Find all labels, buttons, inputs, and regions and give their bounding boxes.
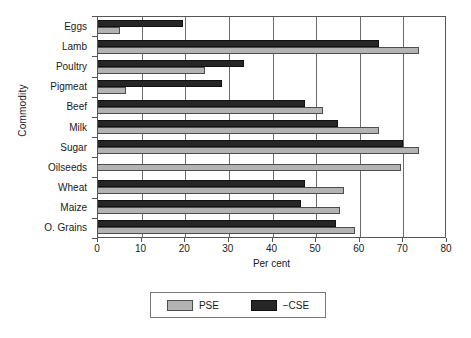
y-axis-label: Poultry: [14, 56, 92, 76]
y-tick-mark: [92, 97, 97, 98]
x-tick-label: 30: [222, 243, 233, 254]
x-tick-label: 10: [135, 243, 146, 254]
bar-group: [98, 97, 445, 117]
bar-group: [98, 197, 445, 217]
bar-cse: [98, 120, 338, 127]
bar-group: [98, 217, 445, 237]
x-tick-mark: [359, 238, 360, 242]
y-axis-label: Lamb: [14, 36, 92, 56]
legend-label-pse: PSE: [199, 300, 219, 311]
x-tick-label: 60: [353, 243, 364, 254]
bars-layer: [98, 17, 445, 237]
bar-cse: [98, 200, 301, 207]
y-tick-mark: [92, 56, 97, 57]
bar-group: [98, 37, 445, 57]
x-tick-mark: [228, 238, 229, 242]
bar-chart: Commodity Eggs Lamb Poultry Pigmeat Beef…: [0, 0, 471, 338]
bar-group: [98, 117, 445, 137]
chart-legend: PSE −CSE: [150, 292, 326, 318]
y-axis-label: Pigmeat: [14, 77, 92, 97]
x-tick-mark: [141, 238, 142, 242]
y-tick-mark: [92, 137, 97, 138]
x-tick-mark: [184, 238, 185, 242]
bar-cse: [98, 180, 305, 187]
bar-cse: [98, 60, 244, 67]
legend-item-cse: −CSE: [251, 300, 309, 311]
bar-group: [98, 77, 445, 97]
legend-label-cse: −CSE: [283, 300, 309, 311]
x-tick-label: 40: [266, 243, 277, 254]
bar-cse: [98, 140, 403, 147]
y-tick-mark: [92, 117, 97, 118]
bar-cse: [98, 100, 305, 107]
bar-group: [98, 137, 445, 157]
x-tick-mark: [272, 238, 273, 242]
y-axis-category-labels: Eggs Lamb Poultry Pigmeat Beef Milk Suga…: [14, 16, 92, 238]
legend-item-pse: PSE: [167, 300, 219, 311]
x-tick-label: 20: [179, 243, 190, 254]
legend-swatch-pse-icon: [167, 300, 193, 311]
x-tick-label: 80: [440, 243, 451, 254]
x-tick-mark: [315, 238, 316, 242]
y-axis-label: Beef: [14, 97, 92, 117]
bar-pse: [98, 164, 401, 171]
y-tick-mark: [92, 36, 97, 37]
bar-group: [98, 17, 445, 37]
y-axis-label: Oilseeds: [14, 157, 92, 177]
bar-cse: [98, 80, 222, 87]
x-axis-title: Per cent: [97, 258, 446, 269]
bar-pse: [98, 127, 379, 134]
y-tick-mark: [92, 77, 97, 78]
bar-pse: [98, 87, 126, 94]
y-axis-label: Maize: [14, 198, 92, 218]
y-tick-mark: [92, 177, 97, 178]
y-axis-label: O. Grains: [14, 218, 92, 238]
y-tick-mark: [92, 16, 97, 17]
bar-pse: [98, 27, 120, 34]
plot-area: [97, 16, 446, 238]
x-tick-mark: [97, 238, 98, 242]
legend-swatch-cse-icon: [251, 300, 277, 311]
x-tick-mark: [446, 238, 447, 242]
bar-pse: [98, 187, 344, 194]
y-tick-mark: [92, 218, 97, 219]
bar-pse: [98, 147, 419, 154]
bar-cse: [98, 20, 183, 27]
bar-group: [98, 157, 445, 177]
bar-pse: [98, 67, 205, 74]
bar-pse: [98, 207, 340, 214]
x-tick-label: 50: [310, 243, 321, 254]
x-tick-label: 70: [397, 243, 408, 254]
bar-group: [98, 57, 445, 77]
bar-cse: [98, 40, 379, 47]
y-axis-label: Milk: [14, 117, 92, 137]
bar-cse: [98, 220, 336, 227]
y-axis-label: Sugar: [14, 137, 92, 157]
y-axis-label: Eggs: [14, 16, 92, 36]
x-tick-label: 0: [94, 243, 100, 254]
x-axis-ticks: 01020304050607080: [97, 238, 446, 258]
bar-pse: [98, 107, 323, 114]
bar-group: [98, 177, 445, 197]
y-tick-mark: [92, 157, 97, 158]
y-axis-label: Wheat: [14, 178, 92, 198]
x-tick-mark: [402, 238, 403, 242]
y-tick-mark: [92, 198, 97, 199]
bar-pse: [98, 227, 355, 234]
bar-pse: [98, 47, 419, 54]
